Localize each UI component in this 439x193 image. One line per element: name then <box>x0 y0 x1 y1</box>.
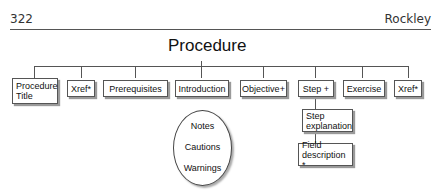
running-head: Rockley <box>384 12 431 26</box>
connector-7 <box>362 66 363 78</box>
box-introduction: Introduction <box>175 80 229 97</box>
connector-1 <box>34 66 35 78</box>
connector-6 <box>315 66 316 78</box>
box-step: Step + <box>298 80 334 97</box>
box-exercise: Exercise <box>343 80 385 97</box>
box-step-explanation: Step explanation <box>302 109 353 132</box>
connector-5 <box>263 66 264 78</box>
box-prerequisites: Prerequisites <box>103 80 168 97</box>
page-number: 322 <box>10 12 33 26</box>
ellipse-item-cautions: Cautions <box>174 142 231 152</box>
box-xref-1: Xref* <box>67 80 95 97</box>
connector-3 <box>135 66 136 78</box>
notes-cautions-warnings-ellipse: Notes Cautions Warnings <box>173 110 232 186</box>
ellipse-item-warnings: Warnings <box>174 163 231 173</box>
connector-4 <box>201 66 202 78</box>
connector-8 <box>408 66 409 78</box>
connector-2 <box>81 66 82 78</box>
box-procedure-title: Procedure Title <box>12 78 58 104</box>
box-objective: Objective+ <box>240 80 287 97</box>
connector-step-down <box>315 97 316 109</box>
diagram-title: Procedure <box>168 36 246 56</box>
box-field-description: Field description * <box>298 143 353 166</box>
header-rule <box>10 29 431 30</box>
ellipse-item-notes: Notes <box>174 121 231 131</box>
box-xref-2: Xref* <box>394 80 422 97</box>
connector-horizontal <box>34 66 408 67</box>
